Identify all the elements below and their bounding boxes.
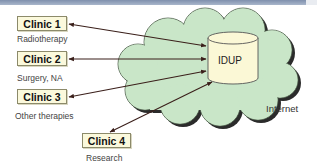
clinic-1-description: Radiotherapy: [17, 34, 68, 44]
database-label: IDUP: [218, 55, 242, 66]
clinic-2-box: Clinic 2: [17, 51, 67, 66]
clinic-3-description: Other therapies: [15, 111, 74, 121]
cloud-label: Internet: [266, 103, 298, 114]
clinic-3-box: Clinic 3: [17, 89, 67, 104]
clinic-2-description: Surgery, NA: [17, 73, 63, 83]
clinic-1-box: Clinic 1: [17, 16, 67, 31]
clinic-4-box: Clinic 4: [82, 133, 131, 148]
clinic-4-description: Research: [86, 153, 122, 163]
